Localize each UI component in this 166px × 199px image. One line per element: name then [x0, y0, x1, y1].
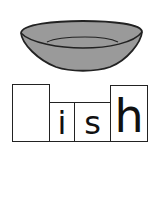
letter-box-i: i: [49, 102, 75, 142]
letter-box-s: s: [74, 102, 111, 142]
letter-i: i: [50, 107, 74, 139]
letter-s: s: [75, 107, 110, 139]
letter-box-h: h: [110, 85, 148, 142]
letter-box-blank[interactable]: [12, 84, 50, 142]
letter-h: h: [111, 93, 147, 139]
dish-icon: [0, 0, 166, 80]
